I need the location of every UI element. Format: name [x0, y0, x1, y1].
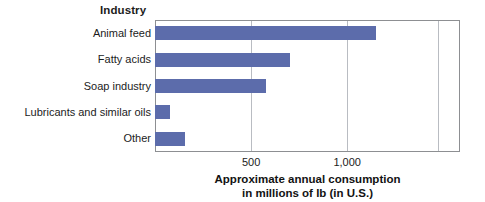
- bar-chart-figure: Industry Animal feedFatty acidsSoap indu…: [0, 0, 485, 202]
- bar-2: [155, 79, 266, 93]
- bars-layer: [155, 20, 460, 152]
- category-label-1: Fatty acids: [0, 54, 151, 65]
- x-axis-tick-labels: 5001,000: [155, 152, 460, 172]
- bar-1: [155, 53, 290, 67]
- bar-0: [155, 26, 376, 40]
- category-label-0: Animal feed: [0, 28, 151, 39]
- x-tick-label-1000: 1,000: [333, 156, 361, 168]
- y-axis-title: Industry: [100, 4, 146, 16]
- x-axis-title: Approximate annual consumption in millio…: [155, 172, 460, 200]
- category-label-2: Soap industry: [0, 81, 151, 92]
- x-axis-title-line-1: Approximate annual consumption: [215, 173, 401, 185]
- bar-4: [155, 132, 185, 146]
- category-label-4: Other: [0, 133, 151, 144]
- x-axis-title-line-2: in millions of lb (in U.S.): [155, 186, 460, 200]
- bar-3: [155, 105, 170, 119]
- y-axis-category-labels: Animal feedFatty acidsSoap industryLubri…: [0, 20, 151, 152]
- category-label-3: Lubricants and similar oils: [0, 107, 151, 118]
- x-tick-label-500: 500: [242, 156, 260, 168]
